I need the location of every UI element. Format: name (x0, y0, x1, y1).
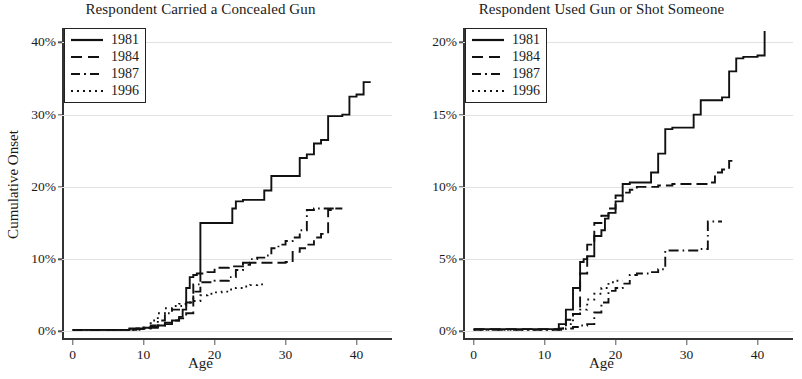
legend-label: 1981 (111, 33, 139, 47)
legend-item-1981: 1981 (471, 31, 540, 48)
legend: 1981198419871996 (64, 28, 146, 103)
x-tick-label: 40 (751, 347, 765, 363)
x-tick-mark (473, 340, 474, 345)
x-tick-label: 0 (69, 347, 76, 363)
x-tick-mark (72, 340, 73, 345)
y-tick-label: 15% (432, 106, 457, 122)
legend-line-sample-dashdot (70, 67, 104, 81)
legend-label: 1987 (111, 67, 139, 81)
x-tick-mark (143, 340, 144, 345)
legend-label: 1984 (111, 50, 139, 64)
x-tick-mark (285, 340, 286, 345)
y-tick-label: 10% (31, 251, 56, 267)
legend-line-sample-dotted (70, 84, 104, 98)
legend-line-sample-solid (70, 33, 104, 47)
legend-item-1996: 1996 (471, 82, 540, 99)
y-tick-label: 40% (31, 34, 56, 50)
figure-two-panel-cumulative-onset: Respondent Carried a Concealed Gun Cumul… (0, 0, 802, 379)
legend-label: 1984 (512, 50, 540, 64)
legend-line-sample-dashdot (471, 67, 505, 81)
x-tick-mark (356, 340, 357, 345)
series-line-1996 (474, 281, 623, 330)
legend-line-sample-dashed (471, 50, 505, 64)
legend-item-1996: 1996 (70, 82, 139, 99)
y-axis-label: Cumulative Onset (5, 100, 22, 270)
legend: 1981198419871996 (465, 28, 547, 103)
y-tick-label: 20% (432, 34, 457, 50)
legend-item-1987: 1987 (70, 65, 139, 82)
y-tick-label: 30% (31, 106, 56, 122)
y-tick-label: 20% (31, 179, 56, 195)
legend-item-1984: 1984 (70, 48, 139, 65)
x-tick-label: 20 (609, 347, 623, 363)
x-tick-label: 10 (137, 347, 151, 363)
x-tick-label: 10 (538, 347, 552, 363)
x-tick-label: 40 (350, 347, 364, 363)
x-axis-label: Age (0, 355, 401, 372)
x-tick-mark (686, 340, 687, 345)
x-tick-mark (615, 340, 616, 345)
x-tick-label: 30 (279, 347, 293, 363)
legend-item-1987: 1987 (471, 65, 540, 82)
x-tick-mark (544, 340, 545, 345)
x-axis-label: Age (401, 355, 802, 372)
legend-line-sample-solid (471, 33, 505, 47)
legend-label: 1987 (512, 67, 540, 81)
legend-line-sample-dotted (471, 84, 505, 98)
panel-used-gun: Respondent Used Gun or Shot Someone Age … (401, 0, 802, 379)
x-tick-label: 30 (680, 347, 694, 363)
y-tick-label: 10% (432, 179, 457, 195)
legend-label: 1996 (512, 84, 540, 98)
x-tick-label: 20 (208, 347, 222, 363)
y-tick-label: 0% (439, 323, 457, 339)
panel-concealed-gun: Respondent Carried a Concealed Gun Cumul… (0, 0, 401, 379)
y-tick-label: 5% (439, 251, 457, 267)
x-tick-mark (214, 340, 215, 345)
series-line-1984 (73, 209, 343, 330)
series-line-1987 (73, 209, 336, 330)
series-line-1987 (474, 222, 722, 330)
legend-line-sample-dashed (70, 50, 104, 64)
panel-title: Respondent Used Gun or Shot Someone (401, 1, 802, 18)
legend-item-1984: 1984 (471, 48, 540, 65)
legend-label: 1981 (512, 33, 540, 47)
panel-title: Respondent Carried a Concealed Gun (0, 1, 401, 18)
legend-label: 1996 (111, 84, 139, 98)
y-tick-label: 0% (38, 323, 56, 339)
x-tick-label: 0 (470, 347, 477, 363)
legend-item-1981: 1981 (70, 31, 139, 48)
x-tick-mark (757, 340, 758, 345)
series-line-1984 (474, 161, 737, 329)
